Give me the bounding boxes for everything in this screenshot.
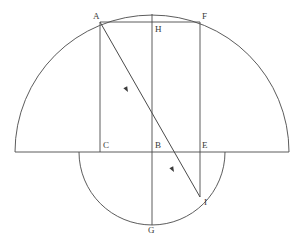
vertex-label-b: B [155, 141, 161, 150]
vertex-label-e: E [202, 141, 208, 150]
vertex-label-a: A [93, 12, 100, 21]
arrowhead-icon [123, 86, 130, 93]
vertex-label-i: I [204, 198, 207, 207]
arrowhead-icon [169, 166, 176, 173]
vertex-label-c: C [103, 141, 109, 150]
vertex-label-f: F [202, 12, 207, 21]
geometry-canvas [0, 0, 301, 240]
ray-ai-line [100, 22, 200, 197]
vertex-label-h: H [155, 25, 162, 34]
vertex-label-g: G [148, 226, 155, 235]
geometry-figure: A H F C B E I G [0, 0, 301, 240]
